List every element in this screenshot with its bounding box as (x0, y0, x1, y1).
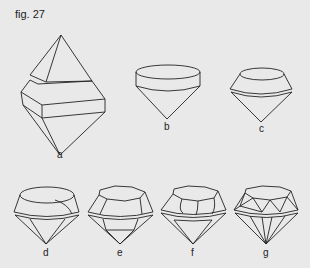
label-e: e (117, 247, 123, 258)
label-f: f (191, 247, 194, 258)
figure-panel: fig. 27 a b (0, 0, 310, 268)
label-c: c (259, 123, 264, 134)
label-a: a (57, 149, 63, 160)
gem-d (14, 187, 79, 244)
gem-cut-diagram: a b c (0, 0, 310, 268)
gem-b (136, 65, 200, 119)
label-d: d (43, 247, 49, 258)
gem-c (230, 68, 292, 122)
gem-f (161, 186, 226, 244)
label-g: g (263, 247, 269, 258)
label-b: b (164, 121, 170, 132)
gem-g (234, 186, 298, 244)
gem-a (21, 35, 105, 155)
gem-e (88, 186, 153, 244)
